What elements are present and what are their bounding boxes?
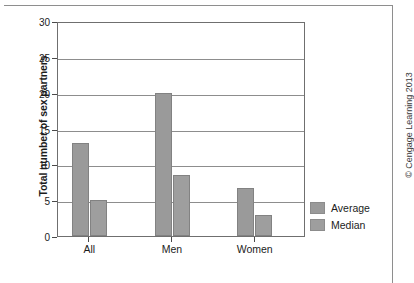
gridline xyxy=(58,166,304,167)
y-tick-mark xyxy=(52,237,57,238)
gridline xyxy=(58,59,304,60)
gridline xyxy=(58,131,304,132)
y-tick-label: 0 xyxy=(10,232,50,243)
bar-median-men xyxy=(173,175,190,236)
plot-inner xyxy=(58,23,304,236)
bar-average-women xyxy=(237,188,254,236)
bar-median-all xyxy=(90,200,107,236)
legend-label-average: Average xyxy=(331,202,370,214)
y-tick-label: 30 xyxy=(10,17,50,28)
legend-item-median: Median xyxy=(310,217,390,232)
legend-swatch-median xyxy=(310,219,325,231)
y-tick-label: 10 xyxy=(10,160,50,171)
y-tick-label: 20 xyxy=(10,88,50,99)
bar-average-men xyxy=(155,93,172,236)
legend-item-average: Average xyxy=(310,200,390,215)
y-tick-label: 15 xyxy=(10,124,50,135)
x-tick-label-all: All xyxy=(54,243,124,255)
chart-legend: AverageMedian xyxy=(310,200,390,234)
legend-label-median: Median xyxy=(331,219,365,231)
copyright-credit: © Cengage Learning 2013 xyxy=(404,65,414,185)
bar-chart-figure: Total number of sex partners 05101520253… xyxy=(0,0,414,283)
y-tick-label: 5 xyxy=(10,196,50,207)
bar-median-women xyxy=(255,215,272,237)
x-tick-mark xyxy=(88,237,89,242)
y-tick-label: 25 xyxy=(10,52,50,63)
gridline xyxy=(58,95,304,96)
x-tick-mark xyxy=(254,237,255,242)
x-tick-label-men: Men xyxy=(137,243,207,255)
plot-area xyxy=(57,22,305,237)
x-tick-mark xyxy=(171,237,172,242)
x-tick-label-women: Women xyxy=(220,243,290,255)
bar-average-all xyxy=(72,143,89,236)
legend-swatch-average xyxy=(310,202,325,214)
